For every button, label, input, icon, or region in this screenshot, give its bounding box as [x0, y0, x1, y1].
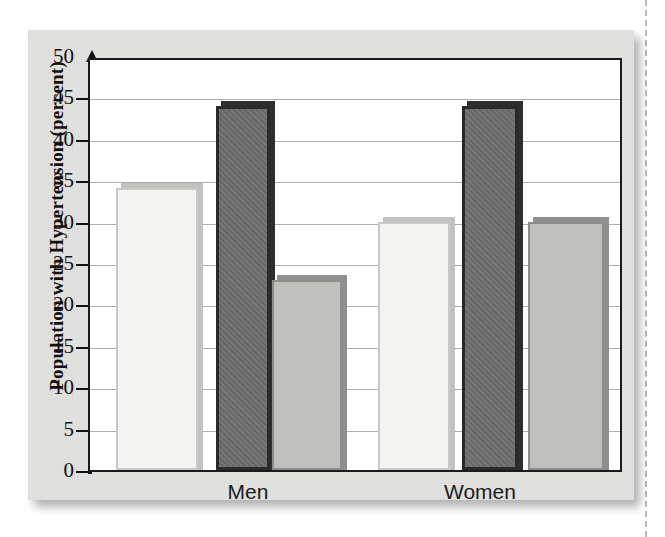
- bar-men-series-3: [272, 280, 342, 470]
- y-axis-tick-label: 0: [22, 458, 74, 483]
- bar-women-series-1: [378, 222, 450, 470]
- bar-face: [462, 106, 518, 470]
- bar-face: [216, 106, 270, 470]
- y-axis-tick-label: 35: [22, 168, 74, 193]
- y-axis-tick-label: 25: [22, 251, 74, 276]
- y-axis-tick-label: 45: [22, 85, 74, 110]
- y-axis-tick-label: 5: [22, 417, 74, 442]
- y-axis-tick-label: 20: [22, 292, 74, 317]
- gridline: [90, 99, 620, 100]
- bar-women-series-3: [528, 222, 604, 470]
- bar-face: [378, 222, 450, 470]
- gridline: [90, 141, 620, 142]
- page-cut-dashed-line: [645, 0, 647, 537]
- y-axis-tick-label: 40: [22, 127, 74, 152]
- y-axis-tick-label: 30: [22, 210, 74, 235]
- y-axis-tick-labels: 50454035302520151050: [0, 0, 74, 537]
- bar-men-series-1: [116, 188, 198, 470]
- y-axis-tick-label: 15: [22, 334, 74, 359]
- x-axis-label-men: Men: [178, 480, 318, 504]
- bar-face: [272, 280, 342, 470]
- plot-area: [88, 58, 622, 472]
- x-axis-label-women: Women: [410, 480, 550, 504]
- bar-face: [116, 188, 198, 470]
- y-axis-tick-label: 50: [22, 44, 74, 69]
- bar-women-series-2: [462, 106, 518, 470]
- bar-face: [528, 222, 604, 470]
- y-axis-tick-label: 10: [22, 375, 74, 400]
- bar-men-series-2: [216, 106, 270, 470]
